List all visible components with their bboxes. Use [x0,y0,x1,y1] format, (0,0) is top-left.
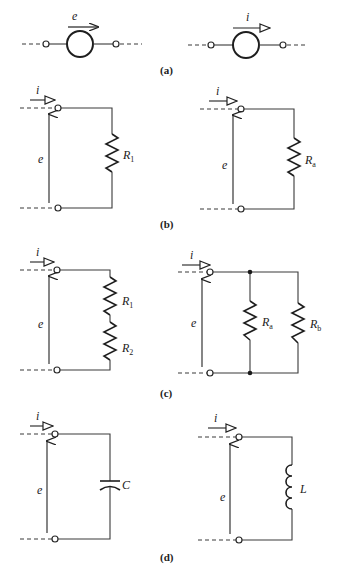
resistor-label: Ra [304,153,316,169]
terminal [55,105,61,111]
resistor-icon [104,277,116,315]
source-circle [67,31,93,57]
inductor-label: L [299,482,307,496]
circuit-r1: i e R1 [20,83,134,211]
terminal [238,106,244,112]
current-label: i [214,411,217,425]
wire [213,343,298,373]
terminal [236,434,242,440]
terminal [207,269,213,275]
wire [61,172,112,208]
circuit-inductor: i e L [198,411,307,543]
terminal [208,42,214,48]
terminal [52,536,58,542]
wire [58,487,110,539]
resistor-icon [288,138,300,176]
voltage-source: e [22,9,142,57]
caption-b: (b) [160,218,174,231]
voltage-label: e [72,9,78,23]
panel-b: i e R1 i e Ra (b) [20,83,316,231]
wire [60,360,110,370]
current-label: i [190,248,193,262]
resistor-icon [244,301,256,340]
capacitor-label: C [122,478,131,492]
panel-d: i e C i e L (d) [20,409,307,564]
source-circle [233,32,259,58]
wire [242,509,292,540]
terminal [238,206,244,212]
resistor-label: R1 [121,294,133,310]
terminal [207,370,213,376]
wire [244,176,294,209]
circuit-capacitor: i e C [20,409,131,542]
voltage-label: e [37,483,43,497]
junction-dot [248,371,253,376]
caption-d: (d) [160,551,174,564]
voltage-label: e [222,158,228,172]
resistor-label: R2 [121,341,133,357]
terminal [113,41,119,47]
wire [60,270,110,277]
terminal [54,267,60,273]
wire [58,434,110,481]
circuit-series-r1-r2: i e R1 R2 [20,245,133,373]
caption-a: (a) [160,64,173,77]
inductor-coil-icon [286,465,292,509]
wire [213,272,298,303]
circuit-elements-figure: e i (a) i e R [0,0,337,578]
voltage-label: e [38,317,44,331]
resistor-label: Rb [309,317,321,333]
current-label: i [36,409,39,423]
terminal [280,42,286,48]
panel-a: e i (a) [22,9,307,77]
resistor-label: R1 [122,148,134,164]
terminal [55,205,61,211]
junction-dot [248,270,253,275]
terminal [52,431,58,437]
voltage-label: e [38,152,44,166]
circuit-parallel-ra-rb: i e Ra Rb [178,248,321,376]
resistor-icon [104,322,116,360]
current-label: i [36,83,39,97]
resistor-icon [292,303,304,343]
current-label: i [246,10,249,24]
terminal [54,367,60,373]
wire [61,108,112,134]
current-label: i [216,84,219,98]
current-label: i [36,245,39,259]
voltage-label: e [191,316,197,330]
terminal [43,41,49,47]
current-source: i [188,10,307,58]
caption-c: (c) [160,387,173,400]
resistor-label: Ra [261,315,273,331]
circuit-ra: i e Ra [200,84,316,212]
terminal [236,537,242,543]
resistor-icon [106,134,118,172]
wire [242,437,292,465]
voltage-label: e [220,490,226,504]
wire [244,109,294,138]
panel-c: i e R1 R2 i [20,245,321,400]
